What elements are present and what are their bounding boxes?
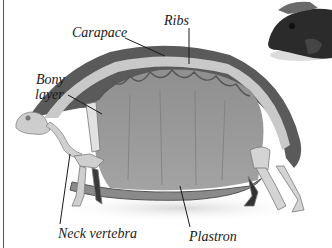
skull-and-neck (16, 112, 82, 158)
label-carapace: Carapace (72, 26, 127, 40)
label-bony-layer-line1: Bony (36, 73, 65, 87)
label-plastron: Plastron (189, 230, 237, 244)
live-turtle-thumbnail (268, 2, 332, 61)
label-bony-layer-line2: layer (35, 88, 64, 102)
turtle-skeleton-figure: Carapace Ribs Bony layer Neck vertebra P… (0, 0, 332, 248)
label-ribs: Ribs (164, 14, 189, 28)
label-neck-vertebra: Neck vertebra (58, 227, 137, 241)
turtle-skeleton-illustration (0, 0, 332, 248)
